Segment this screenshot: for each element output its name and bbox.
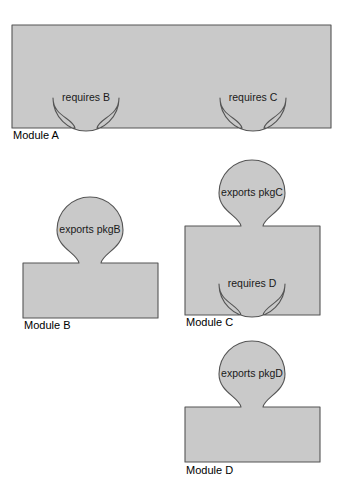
d-exports-pkgd-label: exports pkgD	[221, 367, 283, 379]
module-b	[23, 197, 158, 318]
module-b-caption: Module B	[24, 319, 70, 331]
b-exports-pkgb-label: exports pkgB	[59, 223, 120, 235]
a-requires-c-label: requires C	[229, 91, 278, 103]
c-requires-d-label: requires D	[228, 277, 277, 289]
module-d	[185, 341, 320, 462]
module-b-outline	[23, 197, 158, 318]
module-a-caption: Module A	[13, 129, 60, 141]
module-shapes-layer	[12, 25, 331, 462]
module-c	[185, 160, 320, 317]
module-d-outline	[185, 341, 320, 462]
module-d-caption: Module D	[186, 464, 233, 476]
c-exports-pkgc-label: exports pkgC	[221, 186, 283, 198]
module-dependency-diagram: requires Brequires CModule Aexports pkgB…	[0, 0, 339, 493]
module-c-outline	[185, 160, 320, 317]
module-a-outline	[12, 25, 331, 131]
module-c-caption: Module C	[186, 316, 233, 328]
diagram-canvas: requires Brequires CModule Aexports pkgB…	[0, 0, 339, 493]
module-a	[12, 25, 331, 131]
a-requires-b-label: requires B	[62, 91, 110, 103]
